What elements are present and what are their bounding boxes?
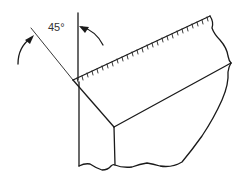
diagram-canvas: 45° (0, 0, 247, 179)
bevel-diagram: 45° (0, 0, 247, 179)
angle-label: 45° (48, 21, 65, 33)
middle-body-edge (114, 127, 115, 165)
body-break-edge (79, 63, 231, 170)
top-face-break-edge (210, 16, 231, 63)
top-ridge-edge (73, 16, 210, 80)
diagonal-reference-line (31, 28, 73, 80)
